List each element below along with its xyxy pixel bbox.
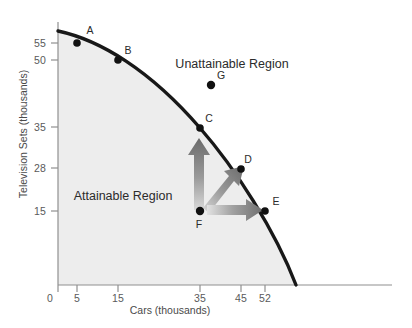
- x-tick-label-45: 45: [235, 292, 247, 304]
- x-axis-ticks: [58, 285, 265, 292]
- point-label-d: D: [244, 153, 252, 165]
- x-tick-label-0: 0: [47, 292, 53, 304]
- data-point-f: [196, 207, 204, 215]
- y-axis-ticks: [51, 43, 58, 211]
- data-point-d: [237, 165, 245, 173]
- x-axis-title: Cars (thousands): [130, 304, 211, 316]
- x-tick-label-35: 35: [194, 292, 206, 304]
- data-point-c: [196, 124, 204, 132]
- data-point-b: [114, 56, 122, 64]
- point-label-e: E: [272, 195, 279, 207]
- data-point-g: [207, 81, 215, 89]
- point-label-b: B: [124, 44, 131, 56]
- y-tick-label-55: 55: [20, 37, 46, 49]
- point-label-c: C: [205, 112, 213, 124]
- point-label-f: F: [196, 218, 202, 230]
- ppf-plot-svg: [0, 0, 412, 328]
- x-tick-label-52: 52: [259, 292, 271, 304]
- data-point-a: [73, 39, 81, 47]
- ppf-chart-figure: 55 50 35 28 15 0 5 15 35 45 52 Cars (tho…: [0, 0, 412, 328]
- y-axis-title: Television Sets (thousands): [17, 59, 29, 209]
- point-label-a: A: [86, 24, 93, 36]
- x-tick-label-5: 5: [74, 292, 80, 304]
- data-point-e: [261, 207, 269, 215]
- unattainable-region-label: Unattainable Region: [175, 57, 288, 71]
- x-tick-label-15: 15: [112, 292, 124, 304]
- attainable-region-label: Attainable Region: [74, 189, 173, 203]
- point-label-g: G: [217, 69, 225, 81]
